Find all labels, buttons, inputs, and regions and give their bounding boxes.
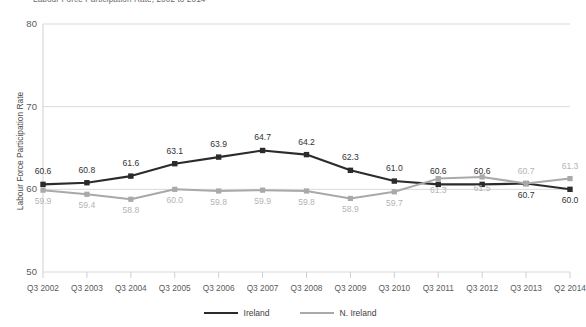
chart-legend: IrelandN. Ireland [0, 308, 580, 318]
legend-item[interactable]: N. Ireland [300, 308, 377, 318]
x-axis-tick-label: Q3 2010 [378, 283, 410, 293]
data-point-marker [304, 188, 309, 193]
data-point-marker [348, 168, 353, 173]
data-label: 60.6 [474, 166, 491, 176]
data-label: 59.8 [298, 197, 315, 207]
legend-item[interactable]: Ireland [204, 308, 270, 318]
data-point-marker [128, 173, 133, 178]
x-axis-tick-label: Q3 2013 [510, 283, 542, 293]
data-label: 61.0 [386, 163, 403, 173]
x-axis-tick-label: Q3 2002 [27, 283, 59, 293]
x-axis-tick-label: Q2 2014 [554, 283, 586, 293]
legend-item-label: N. Ireland [340, 308, 377, 318]
data-label: 60.7 [518, 166, 535, 176]
data-label: 58.8 [122, 205, 139, 215]
data-point-marker [40, 182, 45, 187]
data-point-marker [40, 188, 45, 193]
data-point-marker [436, 176, 441, 181]
x-axis-tick-label: Q3 2005 [159, 283, 191, 293]
data-point-marker [216, 154, 221, 159]
x-axis-tick-label: Q3 2004 [115, 283, 147, 293]
x-axis-tick-label: Q3 2007 [247, 283, 279, 293]
data-point-marker [84, 192, 89, 197]
data-label: 60.6 [35, 166, 52, 176]
data-label: 60.8 [79, 165, 96, 175]
x-axis-tick-label: Q3 2012 [466, 283, 498, 293]
x-axis-tick-label: Q3 2009 [334, 283, 366, 293]
data-point-marker [172, 161, 177, 166]
data-label: 58.9 [342, 204, 359, 214]
x-axis-tick-label: Q3 2011 [423, 283, 454, 293]
data-label: 61.5 [474, 183, 491, 193]
data-label: 59.9 [254, 196, 271, 206]
data-label: 62.3 [342, 152, 359, 162]
data-label: 61.3 [562, 161, 579, 171]
x-axis-tick-label: Q3 2006 [203, 283, 235, 293]
data-label: 60.0 [562, 195, 579, 205]
y-axis-tick-label: 60 [11, 183, 37, 194]
data-label: 59.8 [210, 197, 227, 207]
legend-line-icon [204, 312, 238, 315]
data-label: 60.7 [518, 190, 535, 200]
data-label: 59.7 [386, 198, 403, 208]
data-point-marker [172, 187, 177, 192]
data-point-marker [392, 189, 397, 194]
data-label: 60.0 [166, 195, 183, 205]
data-label: 61.6 [122, 158, 139, 168]
data-point-marker [348, 196, 353, 201]
data-point-marker [260, 148, 265, 153]
data-label: 59.4 [79, 200, 96, 210]
data-label: 63.1 [166, 146, 183, 156]
data-point-marker [84, 180, 89, 185]
data-label: 60.6 [430, 166, 447, 176]
series-line-n-ireland [43, 177, 570, 199]
y-axis-tick-label: 80 [11, 18, 37, 29]
data-point-marker [567, 187, 572, 192]
x-axis-tick-label: Q3 2003 [71, 283, 103, 293]
data-point-marker [392, 178, 397, 183]
data-label: 59.9 [35, 196, 52, 206]
data-point-marker [523, 181, 528, 186]
y-axis-tick-label: 50 [11, 266, 37, 277]
data-point-marker [304, 152, 309, 157]
legend-line-icon [300, 312, 334, 315]
data-label: 64.7 [254, 132, 271, 142]
y-axis-title: Labour Force Participation Rate [15, 71, 25, 231]
data-point-marker [216, 188, 221, 193]
x-axis-tick-label: Q3 2008 [291, 283, 323, 293]
data-point-marker [128, 197, 133, 202]
data-label: 61.3 [430, 185, 447, 195]
legend-item-label: Ireland [244, 308, 270, 318]
y-axis-tick-label: 70 [11, 101, 37, 112]
data-label: 64.2 [298, 137, 315, 147]
data-label: 63.9 [210, 139, 227, 149]
data-point-marker [260, 188, 265, 193]
data-point-marker [567, 176, 572, 181]
chart-title: Labour Force Participation Rate, 2002 to… [33, 0, 205, 4]
